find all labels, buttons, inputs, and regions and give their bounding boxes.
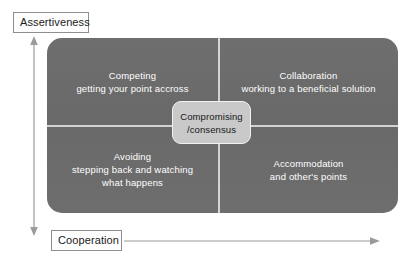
quadrant-accommodation-title: Accommodation — [273, 157, 343, 170]
quadrant-accommodation-subtitle: and other's points — [270, 170, 347, 183]
assertiveness-axis-label: Assertiveness — [13, 12, 89, 33]
cooperation-axis-arrow — [120, 230, 388, 252]
assertiveness-axis-arrow — [24, 34, 46, 238]
conflict-styles-diagram: Assertiveness Cooperation Competing gett… — [0, 0, 418, 261]
quadrant-competing-subtitle: getting your point accross — [76, 82, 188, 95]
cooperation-axis-label: Cooperation — [51, 230, 122, 251]
quadrant-collaboration-title: Collaboration — [280, 69, 338, 82]
quadrant-avoiding-subtitle-line-1: stepping back and watching — [72, 163, 193, 176]
quadrant-avoiding-title: Avoiding — [114, 150, 151, 163]
compromising-label: Compromising — [180, 110, 242, 123]
quadrant-collaboration-subtitle: working to a beneficial solution — [241, 82, 375, 95]
quadrant-competing-title: Competing — [109, 69, 156, 82]
compromising-consensus-box[interactable]: Compromising /consensus — [172, 101, 251, 144]
quadrant-avoiding-subtitle-line-2: what happens — [102, 176, 163, 189]
consensus-label: /consensus — [187, 123, 236, 136]
